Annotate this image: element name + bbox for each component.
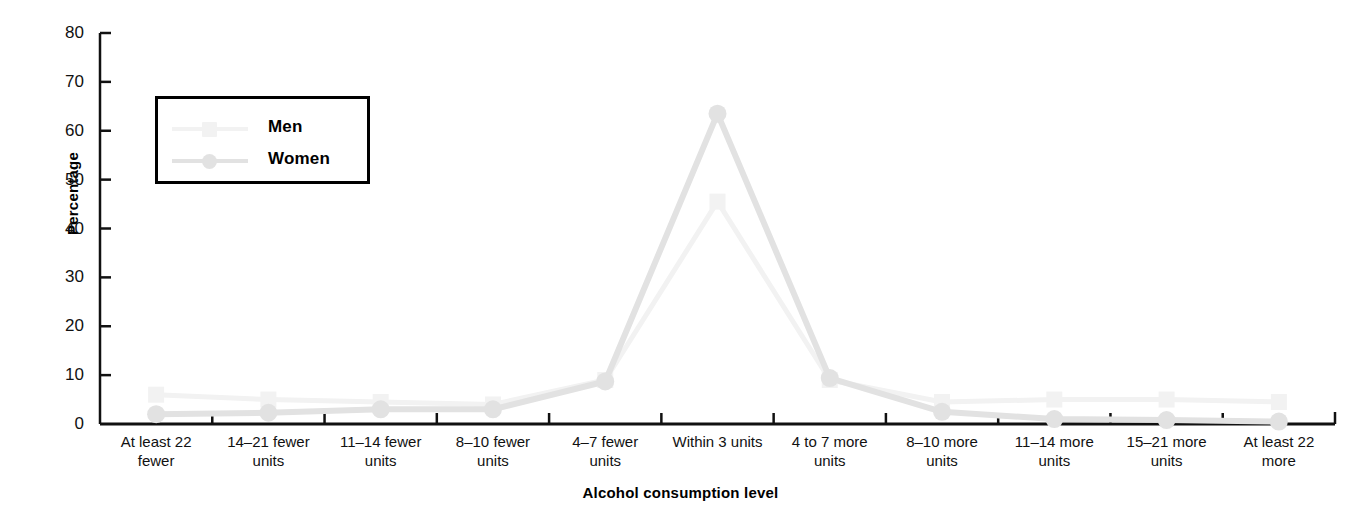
- legend-label-women: Women: [268, 149, 330, 169]
- data-point-circle: [821, 369, 839, 387]
- chart-figure: Percentage 80706050403020100 At least 22…: [0, 0, 1361, 524]
- data-point-circle: [484, 400, 502, 418]
- y-tick-label: 70: [44, 73, 84, 90]
- data-point-circle: [933, 403, 951, 421]
- legend-entry-men: Men: [158, 113, 367, 145]
- series-men: [148, 194, 1287, 413]
- data-point-square: [1159, 392, 1175, 408]
- data-point-square: [1046, 392, 1062, 408]
- data-point-square: [1271, 394, 1287, 410]
- chart-legend: Men Women: [155, 96, 370, 184]
- data-point-circle: [372, 400, 390, 418]
- data-point-circle: [147, 405, 165, 423]
- data-point-square: [148, 387, 164, 403]
- y-tick-label: 40: [44, 220, 84, 237]
- axis-lines: [100, 33, 1335, 424]
- y-tick-label: 10: [44, 366, 84, 383]
- y-tick-label: 80: [44, 24, 84, 41]
- legend-swatch-men: [172, 122, 248, 136]
- y-axis-title: Percentage: [64, 124, 81, 264]
- data-point-circle: [709, 105, 727, 123]
- legend-label-men: Men: [268, 117, 303, 137]
- data-point-circle: [596, 372, 614, 390]
- data-point-circle: [1158, 411, 1176, 429]
- data-point-square: [710, 194, 726, 210]
- x-axis-title: Alcohol consumption level: [0, 484, 1361, 501]
- data-point-circle: [1270, 413, 1288, 431]
- data-point-circle: [1045, 410, 1063, 428]
- data-point-circle: [259, 404, 277, 422]
- y-tick-label: 60: [44, 122, 84, 139]
- y-tick-label: 0: [44, 415, 84, 432]
- series-line: [156, 202, 1279, 405]
- y-tick-label: 20: [44, 317, 84, 334]
- y-tick-label: 30: [44, 268, 84, 285]
- circle-marker-icon: [202, 154, 217, 169]
- legend-swatch-women: [172, 154, 248, 168]
- square-marker-icon: [202, 122, 217, 137]
- y-tick-label: 50: [44, 171, 84, 188]
- x-tick-label: At least 22 more: [1204, 432, 1354, 470]
- legend-entry-women: Women: [158, 145, 367, 177]
